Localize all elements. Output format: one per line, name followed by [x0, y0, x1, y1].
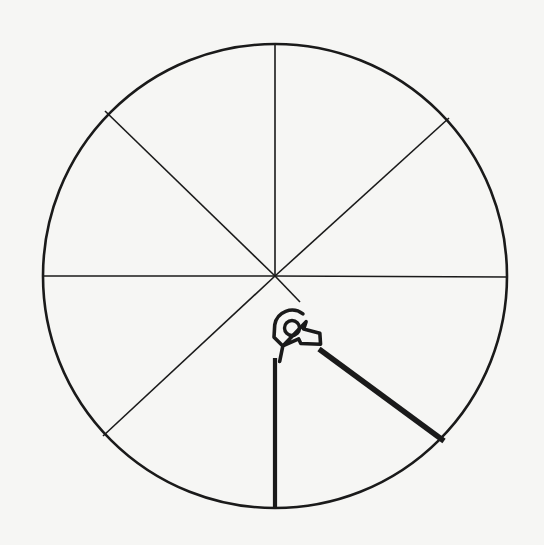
spoke-east-line	[275, 276, 507, 277]
figure-root: Circular dial with eight radial spokes a…	[0, 0, 544, 545]
line-drawing-canvas	[0, 0, 544, 545]
